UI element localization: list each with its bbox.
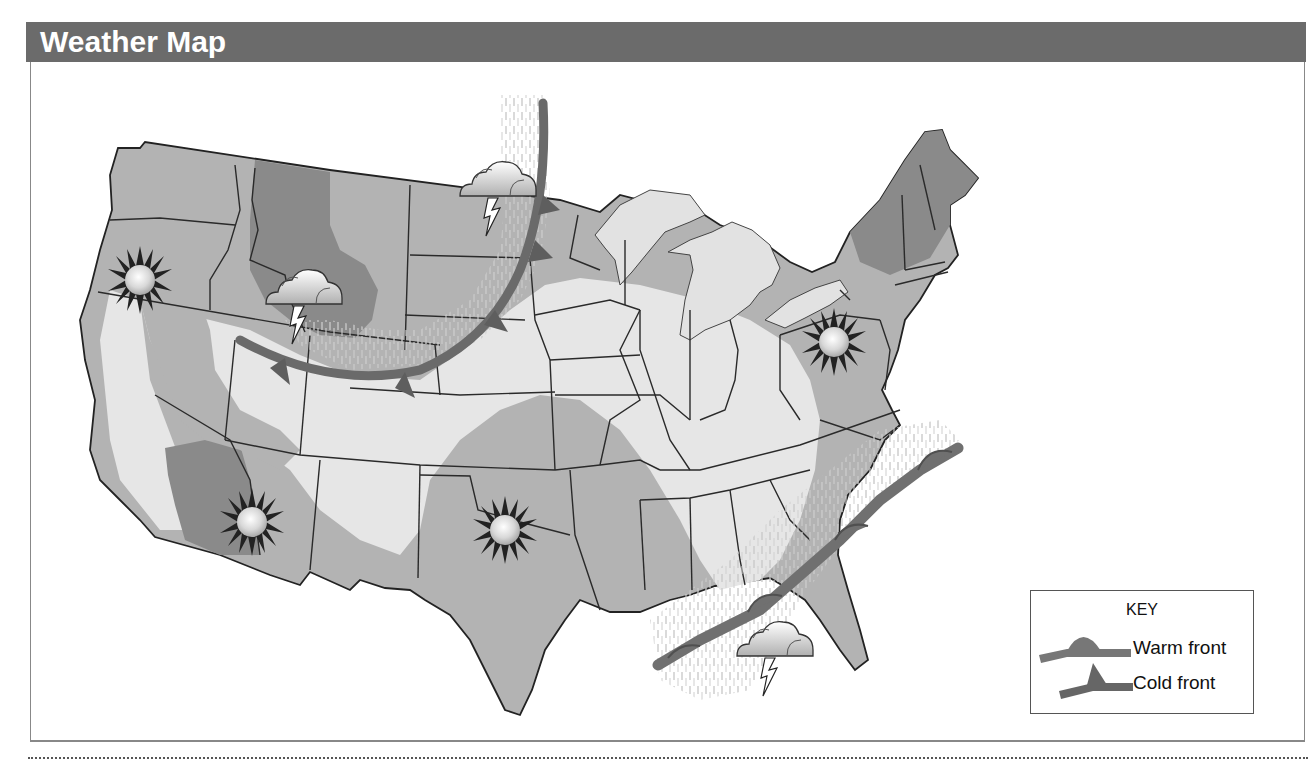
- key-label-cold-front: Cold front: [1133, 672, 1215, 694]
- cold-front-icon: [1037, 663, 1133, 699]
- warm-front-icon: [1037, 627, 1133, 663]
- key-title: KEY: [1031, 601, 1253, 619]
- key-label-warm-front: Warm front: [1133, 637, 1226, 659]
- dark-zone-new-england: [850, 130, 978, 275]
- dotted-divider: [28, 757, 1308, 759]
- map-key: KEY Warm front Cold front: [1030, 590, 1254, 714]
